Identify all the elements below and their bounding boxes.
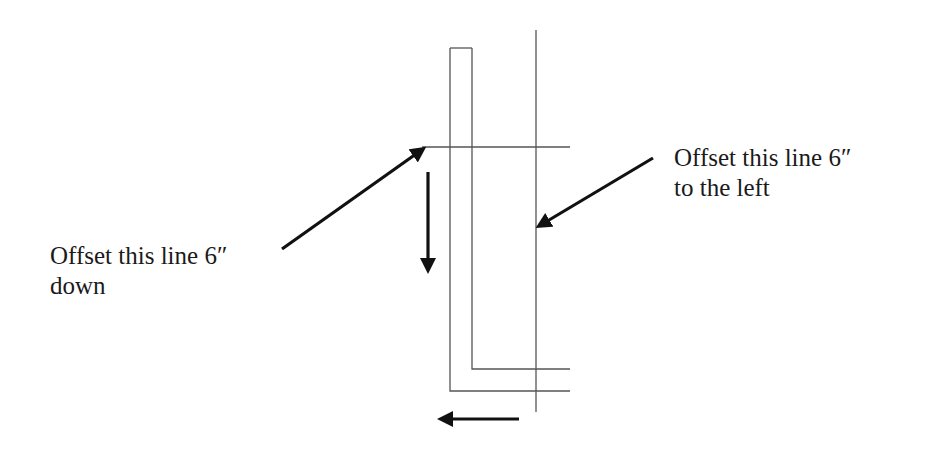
- offset-left-label-line2: to the left: [674, 173, 851, 203]
- offset-left-label: Offset this line 6″ to the left: [674, 143, 851, 203]
- offset-down-label: Offset this line 6″ down: [50, 241, 227, 301]
- pointer-arrow-to-horizontal-line: [282, 149, 423, 249]
- diagram-drawing: [0, 0, 932, 449]
- diagram-canvas: Offset this line 6″ down Offset this lin…: [0, 0, 932, 449]
- pointer-arrow-to-vertical-line: [539, 158, 653, 226]
- inner-wall-line: [472, 48, 570, 369]
- offset-down-label-line2: down: [50, 271, 227, 301]
- offset-left-label-line1: Offset this line 6″: [674, 143, 851, 173]
- offset-down-label-line1: Offset this line 6″: [50, 241, 227, 271]
